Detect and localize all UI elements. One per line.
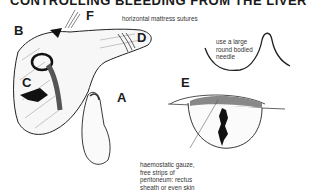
gauze-note-line-4: sheath or even skin xyxy=(140,184,195,192)
gauze-note-line-2: free strips of xyxy=(140,169,175,177)
needle-note-line-2: round bodied xyxy=(216,46,253,54)
sutures-note: horizontal mattress sutures xyxy=(122,15,198,23)
needle-note-line-3: needle xyxy=(216,53,235,61)
label-d: D xyxy=(137,30,146,45)
label-b: B xyxy=(14,23,23,38)
gauze-note-line-1: haemostatic gauze, xyxy=(140,161,195,169)
label-e: E xyxy=(181,75,190,90)
label-c: C xyxy=(22,75,31,90)
needle-note-line-1: use a large xyxy=(216,38,247,46)
label-a: A xyxy=(117,90,126,105)
gauze-note-line-3: peritoneum: rectus xyxy=(140,176,192,184)
label-f: F xyxy=(86,8,94,23)
